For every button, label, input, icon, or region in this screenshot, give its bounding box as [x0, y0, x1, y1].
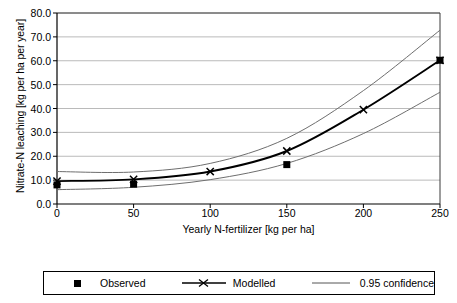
legend-label-confidence: 0.95 confidence	[360, 277, 434, 289]
legend-item-confidence: 0.95 confidence	[302, 277, 434, 289]
line-x-marker-key-icon	[175, 277, 233, 289]
chart-figure: Nitrate-N leaching [kg per ha per year] …	[0, 0, 457, 303]
observed-square-marker	[283, 161, 290, 168]
plain-line-key-icon	[302, 277, 360, 289]
legend-item-modelled: Modelled	[175, 277, 276, 289]
chart-legend: Observed Modelled 0	[43, 271, 435, 295]
observed-square-marker	[130, 181, 137, 188]
legend-label-observed: Observed	[100, 277, 146, 289]
legend-label-modelled: Modelled	[233, 277, 276, 289]
observed-square-marker	[54, 181, 61, 188]
square-marker-key-icon	[54, 280, 100, 287]
observed-square-marker	[437, 57, 444, 64]
plot-area	[0, 0, 457, 303]
x-axis-title: Yearly N-fertilizer [kg per ha]	[57, 223, 440, 235]
legend-item-observed: Observed	[54, 277, 146, 289]
